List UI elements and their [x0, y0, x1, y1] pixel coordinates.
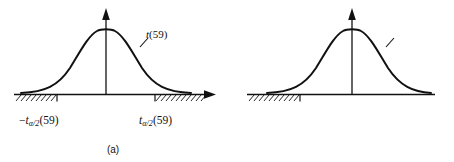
alpha-subscript-left-a: α/2 [29, 119, 40, 128]
panel-b-plot [227, 0, 454, 162]
critical-value-label-right-a: tα/2(59) [139, 115, 172, 128]
axis-arrowhead-right-a [204, 90, 216, 99]
curve-label-a-argument: (59) [149, 28, 167, 40]
hatching-right-a [156, 95, 206, 101]
curve-leader-b [386, 38, 394, 47]
panel-a: t(59) −tα/2(59) tα/2(59) (a) [0, 0, 227, 162]
panel-a-plot [0, 0, 227, 162]
df-argument-right-a: (59) [153, 114, 172, 126]
panel-b: t(59) −tα(59) (b) [227, 0, 454, 162]
panel-caption-a: (a) [93, 144, 133, 155]
statistics-figure: t(59) −tα/2(59) tα/2(59) (a) [0, 0, 454, 162]
hatching-left-a [16, 95, 56, 101]
hatching-left-b [249, 95, 299, 101]
alpha-subscript-right-a: α/2 [142, 119, 153, 128]
critical-value-label-left-a: −tα/2(59) [19, 115, 59, 128]
curve-label-a: t(59) [146, 29, 167, 40]
df-argument-left-a: (59) [39, 114, 58, 126]
axis-arrowhead-up-a [102, 8, 110, 20]
t-density-curve-b [267, 29, 431, 93]
axis-arrowhead-up-b [348, 8, 356, 20]
